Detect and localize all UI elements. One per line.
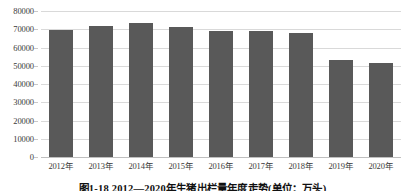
- x-axis-tick-label: 2012年: [41, 160, 81, 173]
- bar-slot: [241, 11, 281, 157]
- figure-caption: 图1-18 2012—2020年生猪出栏量年度走势(单位：万头): [0, 180, 405, 191]
- bar-slot: [201, 11, 241, 157]
- y-axis-tick-label: 60000: [13, 43, 34, 52]
- bar-slot: [161, 11, 201, 157]
- bar[interactable]: [369, 63, 393, 157]
- y-axis-tick-label: 40000: [13, 80, 34, 89]
- x-axis-tick-label: 2014年: [121, 160, 161, 173]
- y-axis-tick: [34, 29, 38, 30]
- x-axis-tick-label: 2015年: [161, 160, 201, 173]
- figure-container: 0100002000030000400005000060000700008000…: [0, 0, 405, 191]
- y-axis-tick: [34, 157, 38, 158]
- y-axis-tick: [34, 102, 38, 103]
- x-axis-tick-label: 2019年: [321, 160, 361, 173]
- y-axis-tick: [34, 11, 38, 12]
- bar-slot: [81, 11, 121, 157]
- bar[interactable]: [49, 30, 73, 157]
- y-axis-tick: [34, 139, 38, 140]
- bar-slot: [121, 11, 161, 157]
- x-axis-tick-label: 2020年: [361, 160, 401, 173]
- plot-area: [41, 11, 401, 157]
- bar[interactable]: [169, 27, 193, 157]
- bar[interactable]: [249, 31, 273, 157]
- y-axis-labels: 0100002000030000400005000060000700008000…: [0, 11, 38, 157]
- bar-slot: [321, 11, 361, 157]
- y-axis-tick-label: 30000: [13, 98, 34, 107]
- y-axis-tick-label: 50000: [13, 62, 34, 71]
- y-axis-tick: [34, 84, 38, 85]
- bar-series: [41, 11, 401, 157]
- gridline: [41, 157, 401, 158]
- bar-slot: [41, 11, 81, 157]
- x-axis-tick-label: 2013年: [81, 160, 121, 173]
- bar[interactable]: [289, 33, 313, 157]
- x-axis-labels: 2012年2013年2014年2015年2016年2017年2018年2019年…: [41, 160, 401, 173]
- bar-slot: [281, 11, 321, 157]
- bar[interactable]: [209, 31, 233, 157]
- y-axis-tick-label: 70000: [13, 25, 34, 34]
- x-axis-tick-label: 2016年: [201, 160, 241, 173]
- bar[interactable]: [129, 23, 153, 157]
- y-axis-tick: [34, 66, 38, 67]
- bar[interactable]: [329, 60, 353, 157]
- y-axis-tick-label: 20000: [13, 116, 34, 125]
- bar-slot: [361, 11, 401, 157]
- y-axis-tick-label: 10000: [13, 135, 34, 144]
- y-axis-tick: [34, 121, 38, 122]
- y-axis-tick: [34, 48, 38, 49]
- x-axis-tick-label: 2018年: [281, 160, 321, 173]
- y-axis-tick-label: 80000: [13, 7, 34, 16]
- x-axis-tick-label: 2017年: [241, 160, 281, 173]
- bar[interactable]: [89, 26, 113, 157]
